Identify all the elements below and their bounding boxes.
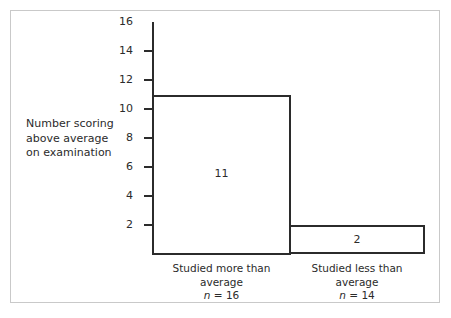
n-value-0: = 16 (210, 289, 239, 301)
x-axis-category-label-0: Studied more than average n = 16 (152, 262, 291, 303)
y-tick-label-2: 2 (103, 219, 133, 230)
category-1-sample-size: n = 14 (289, 289, 425, 303)
y-axis-label-line-1: Number scoring (26, 117, 138, 132)
category-0-sample-size: n = 16 (152, 289, 291, 303)
y-tick-mark-14 (144, 50, 153, 52)
category-0-line-1: Studied more than (152, 262, 291, 276)
y-axis-label-line-2: above average (26, 132, 138, 147)
category-1-line-2: average (289, 276, 425, 290)
x-axis-category-label-1: Studied less than average n = 14 (289, 262, 425, 303)
category-0-line-2: average (152, 276, 291, 290)
y-tick-label-10: 10 (103, 103, 133, 114)
bar-value-label-0: 11 (152, 168, 291, 180)
n-symbol-1: n (339, 289, 346, 301)
n-value-1: = 14 (346, 289, 375, 301)
y-tick-label-12: 12 (103, 74, 133, 85)
y-tick-label-14: 14 (103, 45, 133, 56)
y-tick-label-6: 6 (103, 161, 133, 172)
category-1-line-1: Studied less than (289, 262, 425, 276)
bar-value-label-1: 2 (289, 234, 425, 246)
y-tick-label-16: 16 (103, 16, 133, 27)
y-tick-label-4: 4 (103, 190, 133, 201)
bar-chart-figure: 161412108642 Number scoring above averag… (0, 0, 451, 318)
y-axis-label-line-3: on examination (26, 146, 138, 161)
y-tick-mark-12 (144, 79, 153, 81)
y-axis-label: Number scoring above average on examinat… (26, 117, 138, 161)
